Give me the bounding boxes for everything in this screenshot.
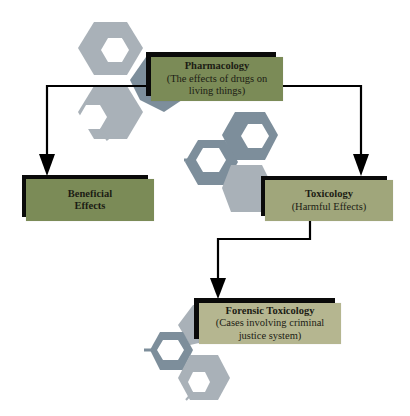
node-toxicology: Toxicology (Harmful Effects) bbox=[261, 176, 393, 221]
arrowhead-icon bbox=[39, 154, 55, 176]
node-title: Forensic Toxicology bbox=[226, 305, 315, 318]
node-subtitle: (Harmful Effects) bbox=[292, 201, 367, 214]
node-box: Pharmacology (The effects of drugs on li… bbox=[151, 57, 283, 101]
node-title: Effects bbox=[75, 200, 106, 213]
node-title: Beneficial bbox=[68, 188, 112, 201]
node-box: Toxicology (Harmful Effects) bbox=[265, 180, 393, 221]
arrowhead-icon bbox=[353, 154, 369, 176]
arrowhead-icon bbox=[210, 278, 226, 299]
node-title: Pharmacology bbox=[185, 60, 250, 73]
node-subtitle: (The effects of drugs on bbox=[167, 73, 268, 86]
edge-pharmacology-beneficial bbox=[47, 86, 146, 162]
node-title: Toxicology bbox=[305, 188, 353, 201]
node-forensic-toxicology: Forensic Toxicology (Cases involving cri… bbox=[194, 298, 341, 344]
edge-pharmacology-toxicology bbox=[282, 86, 361, 162]
node-subtitle: justice system) bbox=[239, 330, 302, 343]
node-subtitle: (Cases involving criminal bbox=[216, 317, 324, 330]
node-box: Beneficial Effects bbox=[26, 179, 154, 221]
node-box: Forensic Toxicology (Cases involving cri… bbox=[199, 303, 341, 344]
node-subtitle: living things) bbox=[189, 85, 245, 98]
edge-toxicology-forensic bbox=[218, 220, 310, 285]
node-beneficial-effects: Beneficial Effects bbox=[22, 175, 154, 222]
node-pharmacology: Pharmacology (The effects of drugs on li… bbox=[146, 52, 283, 101]
